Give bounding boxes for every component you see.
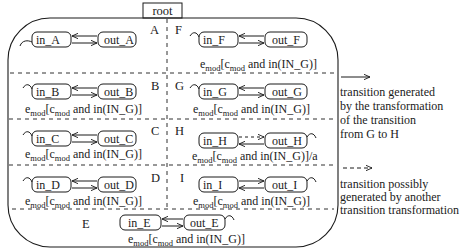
initial-arc-A <box>20 41 32 46</box>
root-label: root <box>152 4 173 18</box>
svg-text:of the transition: of the transition <box>340 113 416 127</box>
svg-text:from G to H: from G to H <box>340 127 399 141</box>
region-B: B in_B out_B emod[cmodand in(IN_G)] <box>23 79 159 118</box>
svg-text:out_H: out_H <box>272 134 302 148</box>
svg-text:by the transformation: by the transformation <box>340 99 443 113</box>
region-C: C in_C out_C emod[cmodand in(IN_G)] <box>23 124 159 163</box>
svg-text:E: E <box>82 217 90 231</box>
guard-F: emod[cmodand in(IN_G)] <box>200 57 317 73</box>
svg-text:in_I: in_I <box>203 178 222 192</box>
region-label-A: A <box>150 23 159 37</box>
svg-text:in_D: in_D <box>36 178 60 192</box>
svg-text:in_B: in_B <box>36 85 59 99</box>
svg-text:in_H: in_H <box>203 134 227 148</box>
svg-text:G: G <box>175 79 184 93</box>
svg-text:generated by another: generated by another <box>340 190 441 204</box>
svg-text:F: F <box>175 23 182 37</box>
guard-B: emod[cmodand in(IN_G)] <box>25 102 142 118</box>
svg-text:transition transformation: transition transformation <box>340 203 459 217</box>
region-G: G in_G out_G emod[cmodand in(IN_G)] <box>175 79 310 118</box>
svg-text:B: B <box>151 79 159 93</box>
region-E: E in_E out_E emod[cmodand in(IN_G)] <box>82 215 245 248</box>
svg-text:out_I: out_I <box>272 178 297 192</box>
region-H: H in_H out_H emod[cmodand in(IN_G)]/a <box>175 124 318 165</box>
svg-text:in_G: in_G <box>203 85 227 99</box>
svg-text:out_E: out_E <box>190 216 219 230</box>
region-A: A in_A out_A <box>20 23 159 47</box>
region-F: F in_F out_F emod[cmodand in(IN_G)] <box>175 23 317 73</box>
guard-D: emod[cmodand in(IN_G)] <box>25 194 142 210</box>
svg-text:out_G: out_G <box>272 85 302 99</box>
guard-E: emod[cmodand in(IN_G)] <box>128 232 245 248</box>
guard-G: emod[cmodand in(IN_G)] <box>193 102 310 118</box>
svg-text:out_D: out_D <box>104 178 134 192</box>
guard-H: emod[cmodand in(IN_G)]/a <box>192 149 318 165</box>
svg-text:H: H <box>175 124 184 138</box>
svg-text:out_C: out_C <box>104 132 133 146</box>
svg-text:in_A: in_A <box>36 33 60 47</box>
root-tab: root <box>143 3 182 18</box>
region-I: I in_I out_I emod[cmodand in(IN_G)] <box>180 171 316 210</box>
legend: transition generated by the transformati… <box>340 77 459 217</box>
region-D: D in_D out_D emod[cmodand in(IN_G)] <box>23 171 160 210</box>
guard-I: emod[cmodand in(IN_G)] <box>193 194 310 210</box>
guard-C: emod[cmodand in(IN_G)] <box>25 147 142 163</box>
svg-text:I: I <box>180 171 184 185</box>
svg-text:C: C <box>151 124 159 138</box>
svg-text:in_C: in_C <box>36 132 59 146</box>
svg-text:D: D <box>151 171 160 185</box>
svg-text:transition possibly: transition possibly <box>340 177 428 191</box>
svg-text:out_A: out_A <box>104 33 134 47</box>
svg-text:transition generated: transition generated <box>340 85 435 99</box>
statechart-diagram: root A in_A out_A F in_F out_F emod[cmod… <box>0 0 464 252</box>
svg-text:in_F: in_F <box>203 33 225 47</box>
svg-text:in_E: in_E <box>128 216 151 230</box>
svg-text:out_B: out_B <box>104 85 133 99</box>
svg-text:out_F: out_F <box>272 33 300 47</box>
